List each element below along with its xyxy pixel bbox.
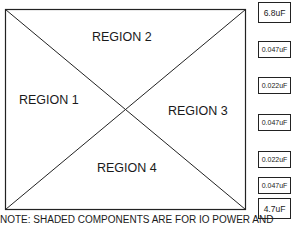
capacitor-0-047uf: 0.047uF	[258, 41, 291, 58]
region-3-label: REGION 3	[168, 104, 228, 118]
note-text: NOTE: SHADED COMPONENTS ARE FOR IO POWER…	[0, 214, 273, 225]
region-2-label: REGION 2	[92, 30, 152, 44]
capacitor-6-8uf: 6.8uF	[258, 2, 291, 23]
region-4-label: REGION 4	[97, 161, 157, 175]
capacitor-0-047uf: 0.047uF	[258, 114, 291, 131]
capacitor-0-022uf: 0.022uF	[258, 151, 291, 168]
capacitor-0-022uf: 0.022uF	[258, 77, 291, 94]
region-1-label: REGION 1	[19, 93, 79, 107]
capacitor-0-047uf: 0.047uF	[258, 177, 291, 194]
